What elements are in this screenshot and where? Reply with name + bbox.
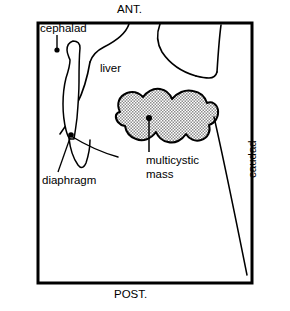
label-anterior: ANT. bbox=[117, 3, 142, 16]
label-caudad: caudad bbox=[246, 140, 259, 178]
diaphragm-dot-marker bbox=[68, 132, 74, 138]
label-multicystic-mass: multicysticmass bbox=[146, 154, 216, 181]
label-posterior: POST. bbox=[114, 288, 147, 301]
label-multicystic-mass-line1: multicystic bbox=[146, 154, 199, 166]
multicystic-mass-shape bbox=[116, 89, 218, 143]
label-cephalad: cephalad bbox=[40, 22, 87, 35]
label-diaphragm: diaphragm bbox=[42, 174, 96, 187]
label-liver: liver bbox=[100, 62, 121, 75]
cephalad-dot-marker bbox=[54, 47, 59, 52]
multicystic-mass-dot-marker bbox=[146, 115, 152, 121]
label-multicystic-mass-line2: mass bbox=[146, 168, 173, 180]
